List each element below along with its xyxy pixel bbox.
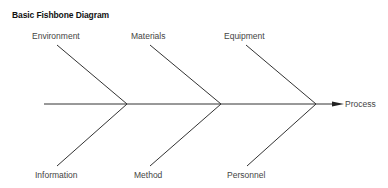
cause-label-method: Method <box>134 170 163 180</box>
cause-branch-line <box>150 45 221 104</box>
top-causes: EnvironmentMaterialsEquipment <box>32 31 316 104</box>
arrowhead-icon <box>332 102 344 107</box>
cause-branch-line <box>150 104 221 166</box>
fishbone-diagram: Process EnvironmentMaterialsEquipment In… <box>0 0 388 188</box>
cause-branch-line <box>57 104 127 166</box>
cause-label-information: Information <box>35 170 78 180</box>
cause-branch-line <box>246 45 316 104</box>
cause-label-equipment: Equipment <box>224 31 265 41</box>
cause-label-environment: Environment <box>32 31 80 41</box>
bottom-causes: InformationMethodPersonnel <box>35 104 316 180</box>
effect-label: Process <box>345 99 376 109</box>
cause-label-materials: Materials <box>131 31 165 41</box>
cause-branch-line <box>57 45 127 104</box>
cause-label-personnel: Personnel <box>227 170 265 180</box>
cause-branch-line <box>247 104 316 166</box>
